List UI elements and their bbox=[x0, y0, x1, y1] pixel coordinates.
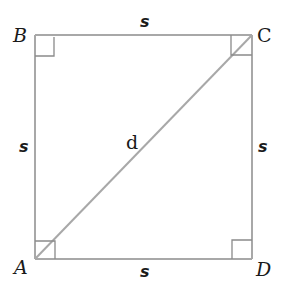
side-label-right: s bbox=[258, 137, 268, 156]
side-label-bottom: s bbox=[140, 262, 150, 281]
right-angle-marker-d bbox=[232, 240, 252, 259]
vertex-label-b: B bbox=[12, 24, 27, 46]
square-diagram: B C A D s s s s d bbox=[0, 0, 291, 288]
vertex-label-c: C bbox=[257, 24, 272, 46]
side-label-top: s bbox=[140, 12, 150, 31]
right-angle-marker-b bbox=[35, 37, 54, 56]
side-label-left: s bbox=[19, 137, 29, 156]
vertex-label-d: D bbox=[255, 258, 271, 280]
vertex-label-a: A bbox=[12, 256, 28, 278]
diagonal-label: d bbox=[126, 131, 138, 153]
diagonal-ac bbox=[35, 35, 252, 259]
